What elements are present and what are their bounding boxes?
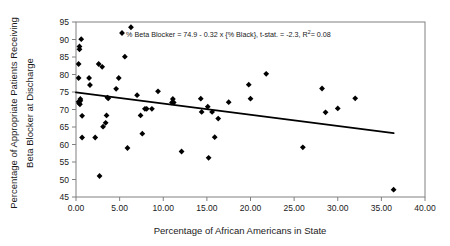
data-point-marker	[138, 113, 144, 119]
data-point-marker	[87, 82, 93, 88]
data-point-marker	[116, 75, 122, 81]
x-tick-label: 15.00	[196, 203, 218, 213]
x-tick-label: 5.00	[111, 203, 128, 213]
data-point-marker	[215, 116, 221, 122]
data-point-marker	[179, 149, 185, 155]
y-axis-title-line2: Beta Blocker at Discharge	[24, 58, 35, 168]
data-point-marker	[125, 145, 131, 151]
y-tick-label: 70	[60, 105, 70, 115]
data-point-marker	[149, 106, 155, 112]
y-axis-tick-labels: 4550556065707580859095	[60, 17, 70, 202]
x-tick-label: 20.00	[240, 203, 262, 213]
x-tick-label: 30.00	[327, 203, 349, 213]
plot-area-border	[76, 22, 425, 197]
y-axis-title-line1: Percentage of Appropriate Patients Recei…	[8, 17, 19, 209]
data-point-marker	[391, 187, 397, 193]
annotation-diamond-icon	[119, 30, 125, 36]
annotation-text: % Beta Blocker = 74.9 - 0.32 x {% Black}…	[126, 29, 331, 39]
data-point-marker	[113, 86, 119, 92]
regression-trend-line	[76, 92, 394, 133]
regression-annotation: % Beta Blocker = 74.9 - 0.32 x {% Black}…	[119, 29, 331, 39]
data-point-marker	[155, 88, 161, 94]
data-point-marker	[300, 144, 306, 150]
x-axis-tick-labels: 0.005.0010.0015.0020.0025.0030.0035.0040…	[68, 203, 436, 213]
data-point-marker	[335, 106, 341, 112]
data-point-marker	[198, 96, 204, 102]
y-tick-label: 45	[60, 192, 70, 202]
data-point-marker	[319, 86, 325, 92]
chart-svg: 4550556065707580859095 0.005.0010.0015.0…	[0, 0, 450, 246]
data-point-marker	[76, 75, 82, 81]
y-tick-label: 85	[60, 52, 70, 62]
data-point-marker	[86, 75, 92, 81]
data-point-marker	[78, 36, 84, 42]
data-point-marker	[206, 155, 212, 161]
y-tick-label: 55	[60, 157, 70, 167]
data-point-marker	[104, 113, 110, 119]
data-point-marker	[323, 109, 329, 115]
x-tick-label: 25.00	[283, 203, 305, 213]
y-tick-label: 60	[60, 140, 70, 150]
data-point-marker	[79, 113, 85, 119]
data-point-marker	[139, 131, 145, 137]
data-point-marker	[134, 92, 140, 98]
data-point-markers	[76, 24, 397, 192]
data-point-marker	[97, 173, 103, 179]
y-axis-ticks	[72, 22, 76, 197]
x-axis-ticks	[76, 197, 425, 201]
data-point-marker	[263, 71, 269, 77]
x-tick-label: 40.00	[414, 203, 436, 213]
data-point-marker	[122, 54, 128, 60]
y-tick-label: 90	[60, 35, 70, 45]
y-tick-label: 95	[60, 17, 70, 27]
data-point-marker	[248, 96, 254, 102]
data-point-marker	[92, 135, 98, 141]
y-tick-label: 80	[60, 70, 70, 80]
y-tick-label: 65	[60, 122, 70, 132]
data-point-marker	[76, 61, 82, 67]
data-point-marker	[246, 82, 252, 88]
x-tick-label: 0.00	[68, 203, 85, 213]
x-tick-label: 10.00	[153, 203, 175, 213]
data-point-marker	[352, 95, 358, 101]
data-point-marker	[79, 135, 85, 141]
y-tick-label: 50	[60, 175, 70, 185]
x-axis-title: Percentage of African Americans in State	[154, 225, 327, 236]
data-point-marker	[226, 99, 232, 105]
scatter-plot-figure: 4550556065707580859095 0.005.0010.0015.0…	[0, 0, 450, 246]
y-tick-label: 75	[60, 87, 70, 97]
data-point-marker	[199, 109, 205, 115]
data-point-marker	[212, 134, 218, 140]
x-tick-label: 35.00	[371, 203, 393, 213]
